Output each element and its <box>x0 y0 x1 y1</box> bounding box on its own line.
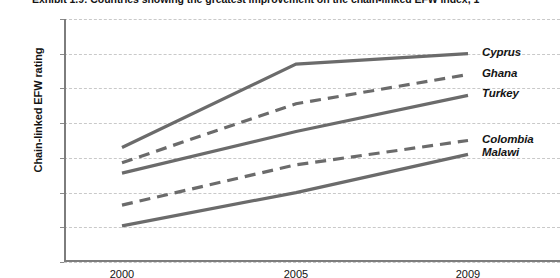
chart-title: Exhibit 1.9: Countries showing the great… <box>32 0 552 6</box>
series-label-malawi: Malawi <box>482 146 519 158</box>
x-tick-label: 2009 <box>428 268 508 278</box>
series-line-cyprus <box>122 54 468 148</box>
series-label-colombia: Colombia <box>482 133 534 145</box>
y-tick-mark <box>60 262 64 263</box>
x-tick-label: 2005 <box>256 268 336 278</box>
plot-area: 8.07.57.06.56.05.55.04.5 200020052009 Cy… <box>64 19 560 262</box>
series-line-colombia <box>122 141 468 206</box>
series-label-cyprus: Cyprus <box>482 46 521 58</box>
series-line-turkey <box>122 95 468 173</box>
chart-container: Exhibit 1.9: Countries showing the great… <box>0 0 560 278</box>
series-label-turkey: Turkey <box>482 87 519 99</box>
series-line-malawi <box>122 154 468 226</box>
gridline <box>64 262 560 263</box>
y-axis-title: Chain-linked EFW rating <box>32 10 44 210</box>
x-tick-label: 2000 <box>82 268 162 278</box>
series-label-ghana: Ghana <box>482 67 517 79</box>
series-line-ghana <box>122 75 468 163</box>
